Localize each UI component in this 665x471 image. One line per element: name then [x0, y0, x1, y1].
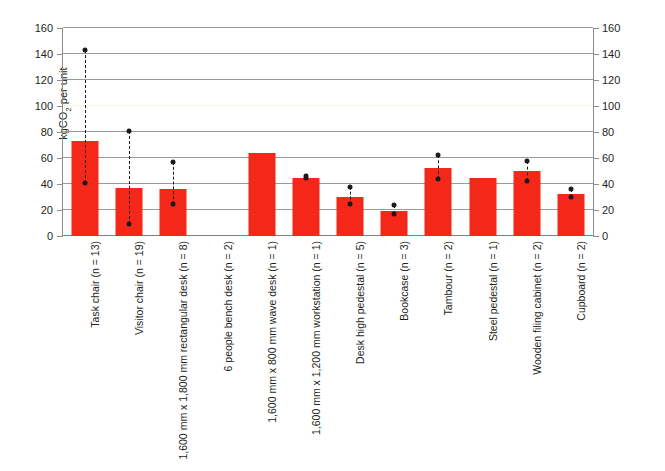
y-tick-left-80: [57, 132, 62, 133]
x-axis-label: Desk high pedestal (n = 5): [328, 241, 372, 461]
y-tick-right-160: [594, 28, 599, 29]
y-tick-right-80: [594, 132, 599, 133]
bar-slot: [549, 28, 593, 236]
x-axis-label-text: Wooden filing cabinet (n = 2): [531, 241, 543, 375]
error-bar-dot-high: [303, 174, 308, 179]
y-tick-right-100: [594, 106, 599, 107]
chart-page: kgCO2 per unit 020406080100120140160 020…: [0, 0, 665, 471]
bar-slot: [240, 28, 284, 236]
y-tick-label-left-80: 80: [21, 127, 53, 138]
y-tick-label-right-60: 60: [602, 153, 634, 164]
y-tick-label-right-80: 80: [602, 127, 634, 138]
y-tick-right-0: [594, 236, 599, 237]
error-bar-line: [173, 162, 174, 204]
bar[interactable]: [557, 194, 584, 236]
error-bar-dot-high: [436, 153, 441, 158]
error-bar-dot-high: [568, 187, 573, 192]
x-axis-label: 6 people bench desk (n = 2): [196, 241, 240, 461]
y-tick-left-120: [57, 80, 62, 81]
y-tick-right-60: [594, 158, 599, 159]
y-tick-left-40: [57, 184, 62, 185]
x-axis-label: Cupboard (n = 2): [549, 241, 593, 461]
y-tick-label-right-0: 0: [602, 231, 634, 242]
error-bar-line: [438, 155, 439, 178]
bar-slot: [63, 28, 107, 236]
left-axis-line: [62, 28, 63, 237]
y-tick-label-left-0: 0: [21, 231, 53, 242]
x-axis-label: Steel pedestal (n = 1): [461, 241, 505, 461]
bar-slot: [461, 28, 505, 236]
y-tick-label-right-20: 20: [602, 205, 634, 216]
error-bar-dot-low: [392, 211, 397, 216]
y-tick-right-120: [594, 80, 599, 81]
bar-slot: [151, 28, 195, 236]
x-axis-label: 1,600 mm x 1,800 mm rectangular desk (n …: [151, 241, 195, 461]
x-axis-label: Task chair (n = 13): [63, 241, 107, 461]
y-tick-label-right-120: 120: [602, 75, 634, 86]
error-bar-dot-high: [524, 158, 529, 163]
error-bar-dot-low: [436, 176, 441, 181]
error-bar-dot-low: [524, 179, 529, 184]
bar-slot: [505, 28, 549, 236]
x-axis-label-text: Bookcase (n = 3): [398, 241, 410, 321]
x-axis-label-text: 1,600 mm x 800 mm wave desk (n = 1): [266, 241, 278, 423]
error-bar-dot-high: [348, 184, 353, 189]
y-tick-label-left-20: 20: [21, 205, 53, 216]
error-bar-dot-low: [568, 195, 573, 200]
bar-slot: [284, 28, 328, 236]
bar-slot: [328, 28, 372, 236]
y-tick-label-left-140: 140: [21, 49, 53, 60]
x-axis-label-text: Tambour (n = 2): [442, 241, 454, 315]
y-tick-left-20: [57, 210, 62, 211]
y-tick-label-left-100: 100: [21, 101, 53, 112]
error-bar-dot-low: [127, 222, 132, 227]
error-bar-dot-high: [392, 202, 397, 207]
x-axis-label-text: Desk high pedestal (n = 5): [354, 241, 366, 364]
x-axis-label: 1,600 mm x 1,200 mm workstation (n = 1): [284, 241, 328, 461]
y-tick-label-left-120: 120: [21, 75, 53, 86]
x-axis-label-text: Steel pedestal (n = 1): [487, 241, 499, 341]
y-tick-right-140: [594, 54, 599, 55]
bar-slot: [196, 28, 240, 236]
y-tick-label-left-40: 40: [21, 179, 53, 190]
bar[interactable]: [248, 153, 275, 236]
error-bar-dot-low: [83, 180, 88, 185]
x-axis-label: Bookcase (n = 3): [372, 241, 416, 461]
x-axis-label-text: 1,600 mm x 1,200 mm workstation (n = 1): [310, 241, 322, 435]
y-tick-left-160: [57, 28, 62, 29]
error-bar-line: [129, 131, 130, 225]
x-axis-label: Visitor chair (n = 19): [107, 241, 151, 461]
x-axis-label: Wooden filing cabinet (n = 2): [505, 241, 549, 461]
y-tick-left-60: [57, 158, 62, 159]
y-tick-label-right-100: 100: [602, 101, 634, 112]
y-tick-label-left-160: 160: [21, 23, 53, 34]
y-tick-label-right-140: 140: [602, 49, 634, 60]
x-axis-label: Tambour (n = 2): [416, 241, 460, 461]
x-axis-label: 1,600 mm x 800 mm wave desk (n = 1): [240, 241, 284, 461]
error-bar-dot-low: [348, 201, 353, 206]
y-tick-left-100: [57, 106, 62, 107]
error-bar-dot-high: [127, 128, 132, 133]
error-bar-dot-low: [171, 201, 176, 206]
x-axis-label-text: Cupboard (n = 2): [575, 241, 587, 321]
x-axis-label-text: Task chair (n = 13): [89, 241, 101, 328]
bar-slot: [372, 28, 416, 236]
y-tick-label-left-60: 60: [21, 153, 53, 164]
bar[interactable]: [469, 178, 496, 237]
plot-area: [63, 28, 593, 236]
bar-slot: [107, 28, 151, 236]
error-bar-line: [85, 50, 86, 183]
y-tick-left-140: [57, 54, 62, 55]
x-axis-label-text: 1,600 mm x 1,800 mm rectangular desk (n …: [177, 241, 189, 460]
error-bar-dot-high: [171, 159, 176, 164]
error-bar-dot-high: [83, 48, 88, 53]
x-axis-label-text: Visitor chair (n = 19): [133, 241, 145, 335]
x-axis-label-text: 6 people bench desk (n = 2): [222, 241, 234, 371]
y-tick-left-0: [57, 236, 62, 237]
bar[interactable]: [292, 178, 319, 237]
y-tick-label-right-160: 160: [602, 23, 634, 34]
y-tick-label-right-40: 40: [602, 179, 634, 190]
y-tick-right-40: [594, 184, 599, 185]
bar-slot: [416, 28, 460, 236]
y-tick-right-20: [594, 210, 599, 211]
